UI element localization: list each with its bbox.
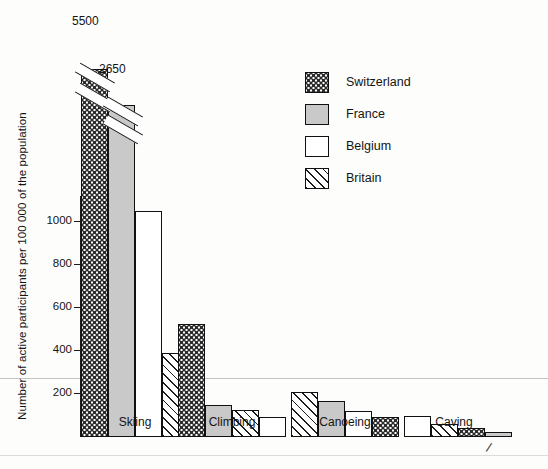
bar-chart: Number of active participants per 100 00… [0,0,548,469]
x-label-climbing: Climbing [178,415,286,429]
y-tick-label-1000: 1000 [26,214,72,226]
legend-label-britain: Britain [346,171,381,185]
scan-artifact-line-bottom [0,455,548,456]
y-tick-label-800: 800 [26,257,72,269]
y-tick-1000 [74,221,81,222]
x-label-caving: Caving [400,415,508,429]
y-axis-title: Number of active participants per 100 00… [16,120,28,420]
y-tick-label-600: 600 [26,300,72,312]
bar-caving-switzerland[interactable] [458,428,485,437]
legend-label-belgium: Belgium [346,139,391,153]
y-tick-800 [74,264,81,265]
legend-label-france: France [346,107,385,121]
legend-item-france[interactable]: France [305,98,411,130]
y-tick-400 [74,350,81,351]
legend-item-switzerland[interactable]: Switzerland [305,66,411,98]
legend: Switzerland France Belgium Britain [305,66,411,194]
value-label-skiing-france: 2650 [99,62,126,76]
legend-swatch-france [305,104,329,125]
y-tick-label-200: 200 [26,386,72,398]
y-tick-200 [74,393,81,394]
bar-group-climbing: Climbing [178,37,286,437]
x-label-skiing: Skiing [81,415,189,429]
bar-group-caving: Caving [404,37,512,437]
x-label-canoeing: Canoeing [291,415,399,429]
legend-swatch-switzerland [305,72,329,93]
bar-skiing-belgium[interactable] [135,211,162,437]
legend-item-belgium[interactable]: Belgium [305,130,411,162]
legend-swatch-belgium [305,136,329,157]
y-tick-600 [74,307,81,308]
y-tick-label-400: 400 [26,343,72,355]
legend-item-britain[interactable]: Britain [305,162,411,194]
stray-pen-mark: / [485,440,493,455]
bar-caving-france[interactable] [485,432,512,437]
legend-label-switzerland: Switzerland [346,75,411,89]
bar-skiing-france[interactable] [108,105,135,437]
value-label-skiing-switzerland: 5500 [72,14,99,28]
legend-swatch-britain [305,168,329,189]
